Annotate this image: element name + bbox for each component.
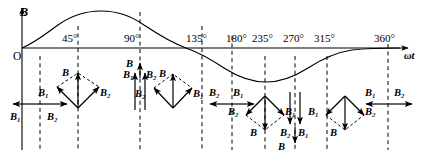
tick-label-270: 270° bbox=[283, 32, 304, 44]
diagram-0deg: B₁ B₂ bbox=[9, 104, 67, 122]
label-b2: B₂ bbox=[393, 87, 405, 98]
label-b: B bbox=[249, 127, 257, 138]
label-b2: B₂ bbox=[279, 127, 291, 138]
vector-b2 bbox=[246, 96, 265, 115]
diagram-270deg: B₂ B₁ B bbox=[277, 92, 309, 152]
label-b: B bbox=[125, 58, 133, 69]
label-b1: B₁ bbox=[37, 87, 49, 98]
label-b: B bbox=[277, 141, 285, 152]
label-b1: B₁ bbox=[307, 106, 319, 117]
figure-container: B O ωt 45° 90° 135° 180° 235° 270° 315° … bbox=[0, 0, 425, 156]
vector-b2 bbox=[78, 87, 99, 108]
label-b2: B₂ bbox=[46, 111, 58, 122]
label-b1: B₁ bbox=[364, 87, 376, 98]
figure-svg: B O ωt 45° 90° 135° 180° 235° 270° 315° … bbox=[0, 0, 425, 156]
diagram-180deg: B₂ B₁ bbox=[208, 87, 254, 104]
vector-b2 bbox=[345, 96, 364, 115]
label-b1: B₁ bbox=[297, 127, 309, 138]
sine-curve bbox=[22, 11, 400, 82]
label-b2: B₂ bbox=[99, 87, 111, 98]
vector-b1 bbox=[57, 87, 78, 108]
tick-label-90: 90° bbox=[124, 32, 139, 44]
tick-label-360: 360° bbox=[374, 32, 395, 44]
label-b2: B₂ bbox=[208, 87, 220, 98]
label-b: B bbox=[329, 127, 337, 138]
vector-b1 bbox=[173, 88, 192, 108]
label-b2: B₂ bbox=[145, 69, 157, 80]
label-b1: B₁ bbox=[122, 69, 134, 80]
label-b2: B₂ bbox=[134, 88, 146, 99]
label-b2: B₂ bbox=[364, 106, 376, 117]
axes-group bbox=[22, 8, 408, 150]
tick-label-135: 135° bbox=[186, 32, 207, 44]
label-b1: B₁ bbox=[9, 111, 21, 122]
label-b: B bbox=[61, 67, 69, 78]
tick-label-group: 45° 90° 135° 180° 235° 270° 315° 360° bbox=[62, 32, 395, 44]
tick-label-235: 235° bbox=[252, 32, 273, 44]
y-axis-label: B bbox=[19, 5, 28, 19]
diagram-45deg: B₁ B₂ B bbox=[37, 67, 111, 108]
label-b1: B₁ bbox=[192, 88, 204, 99]
label-b1: B₁ bbox=[232, 87, 244, 98]
x-axis-label: ωt bbox=[404, 50, 416, 61]
label-b2: B₂ bbox=[227, 106, 239, 117]
vector-b1 bbox=[265, 96, 284, 115]
tick-label-180: 180° bbox=[226, 32, 247, 44]
diagram-315deg: B₁ B₂ B bbox=[307, 96, 376, 138]
tick-label-315: 315° bbox=[314, 32, 335, 44]
label-b: B bbox=[158, 68, 166, 79]
origin-label: O bbox=[13, 50, 21, 62]
tick-label-45: 45° bbox=[62, 32, 77, 44]
vector-b1 bbox=[326, 96, 345, 115]
vector-b2 bbox=[154, 88, 173, 108]
